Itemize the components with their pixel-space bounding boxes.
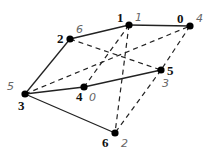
node-value-label: 5 [7, 80, 14, 93]
node-value-label: 1 [135, 11, 142, 24]
node-5: 53 [157, 63, 174, 90]
graph-diagram: 04112635405362 [0, 0, 210, 158]
node-dot [186, 22, 193, 29]
node-id-label: 5 [167, 63, 174, 78]
node-value-label: 4 [196, 12, 203, 25]
node-1: 11 [117, 10, 142, 29]
node-dot [157, 66, 164, 73]
node-3: 35 [7, 80, 29, 113]
node-0: 04 [177, 11, 203, 30]
edge-3-6-solid [25, 94, 115, 133]
node-value-label: 2 [121, 137, 128, 150]
edge-2-5-dashed [70, 39, 161, 70]
node-id-label: 0 [177, 11, 184, 26]
node-dot [66, 35, 73, 42]
node-dot [125, 21, 132, 28]
node-value-label: 0 [89, 91, 96, 104]
node-value-label: 3 [162, 77, 169, 90]
node-4: 40 [76, 83, 96, 104]
node-dot [21, 90, 28, 97]
node-value-label: 6 [76, 23, 83, 36]
node-id-label: 6 [102, 135, 109, 150]
edge-2-3-solid [25, 39, 70, 94]
node-id-label: 1 [117, 10, 124, 25]
node-dot [111, 129, 118, 136]
node-id-label: 2 [57, 31, 64, 46]
node-6: 62 [102, 129, 128, 150]
node-id-label: 3 [18, 98, 25, 113]
node-id-label: 4 [76, 89, 83, 104]
